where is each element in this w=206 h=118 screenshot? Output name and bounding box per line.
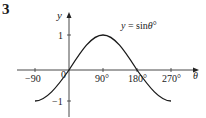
tick-label-yneg1: −1 <box>52 96 63 107</box>
tick-label-90: 90° <box>95 73 109 84</box>
x-axis-label: θ <box>193 70 198 81</box>
tick-label-180: 180° <box>128 73 147 84</box>
equation-label: y = sinθ° <box>120 20 157 31</box>
y-axis-label: y <box>56 9 62 21</box>
y-axis-arrow-icon <box>67 12 72 18</box>
tick-label-0: 0 <box>61 69 66 80</box>
tick-label-neg90: −90 <box>25 73 41 84</box>
sine-chart: y θ y = sinθ° −90 0 90° 180° 270° 1 −1 <box>0 0 206 118</box>
tick-label-y1: 1 <box>58 30 63 41</box>
tick-label-270: 270° <box>162 73 181 84</box>
